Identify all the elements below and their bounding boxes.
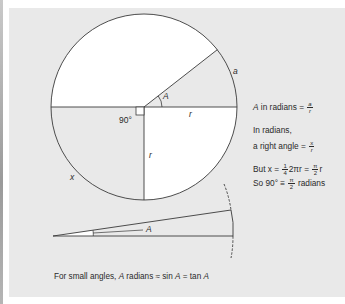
note4-fraction-quarter: 1 4: [282, 163, 287, 176]
small-angle-triangle: [53, 210, 233, 236]
note4-text-c: r: [319, 165, 322, 173]
note-in-radians: In radians,: [253, 126, 292, 134]
note4-fraction-pi-over-2: π 2: [312, 163, 318, 176]
label-right-angle: 90°: [119, 116, 132, 125]
diagram-stage: a A r 90° r x A A in radians = a r In ra…: [0, 0, 345, 304]
note5-frac-den: 2: [289, 184, 294, 190]
triangle-arc-dashed-top: [224, 184, 231, 210]
angle-label-leader: [93, 230, 143, 233]
note3-frac-num: x: [309, 140, 314, 147]
note3-fraction: x r: [309, 140, 314, 153]
note-right-angle: a right angle = x r: [253, 140, 315, 153]
note1-frac-den: r: [308, 108, 312, 114]
label-radius-horizontal: r: [189, 110, 192, 119]
note5-frac-num: π: [288, 177, 294, 184]
triangle-arc-solid: [231, 210, 233, 236]
note1-text: in radians =: [259, 103, 307, 111]
note4-frac2-num: π: [312, 163, 318, 170]
label-quarter-arc-x: x: [70, 173, 74, 182]
label-arc-a: a: [233, 67, 238, 76]
caption-text-a: For small angles,: [54, 273, 119, 281]
label-angle-a: A: [163, 92, 169, 101]
caption-text-c: = tan: [180, 273, 203, 281]
note1-fraction: a r: [307, 101, 312, 114]
label-small-angle-a: A: [146, 225, 152, 234]
note-so-90: So 90° ≡ π 2 radians: [253, 177, 325, 190]
note4-text-b: 2πr =: [289, 165, 312, 173]
caption-small-angles: For small angles, A radians ≈ sin A = ta…: [54, 273, 209, 281]
note-but-x: But x = 1 4 2πr = π 2 r: [253, 163, 322, 176]
caption-text-b: radians ≈ sin: [124, 273, 175, 281]
note5-text-b: radians: [296, 179, 326, 187]
note4-frac2-den: 2: [313, 170, 318, 176]
caption-italic-a3: A: [203, 273, 208, 281]
note2-text: In radians,: [253, 126, 292, 134]
note5-fraction: π 2: [288, 177, 294, 190]
note1-frac-num: a: [307, 101, 312, 108]
note4-text-a: But x =: [253, 165, 281, 173]
label-radius-vertical: r: [149, 151, 152, 160]
triangle-arc-dashed-bottom: [231, 236, 233, 258]
note3-frac-den: r: [310, 147, 314, 153]
right-angle-marker: [136, 107, 144, 115]
note-a-in-radians: A in radians = a r: [253, 101, 314, 114]
note4-frac1-num: 1: [282, 163, 287, 170]
note5-text-a: So 90° ≡: [253, 179, 287, 187]
note4-frac1-den: 4: [282, 170, 287, 176]
note3-text: a right angle =: [253, 142, 308, 150]
